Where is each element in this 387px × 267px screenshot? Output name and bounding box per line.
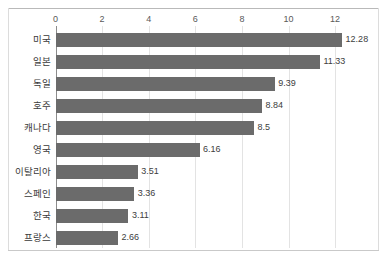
bar-chart: 024681012 미국12.28일본11.33독일9.39호주8.84캐나다8… [0,0,387,267]
bar-value-label: 12.28 [346,29,369,51]
category-label: 프랑스 [24,227,51,249]
bar-value-label: 8.5 [258,117,271,139]
bar-value-label: 3.11 [132,205,149,227]
category-label: 미국 [33,29,51,51]
bar [56,231,118,245]
bar-value-label: 11.33 [323,51,345,73]
category-label: 독일 [33,73,51,95]
bar-value-label: 6.16 [203,139,221,161]
bar-value-label: 2.66 [121,227,139,249]
category-label: 호주 [33,95,51,117]
x-tick-label: 10 [283,14,293,25]
bar-row: 스페인3.36 [0,183,387,205]
bar [56,143,200,157]
category-label: 이탈리아 [15,161,51,183]
bar-row: 독일9.39 [0,73,387,95]
bar [56,165,138,179]
bar [56,33,342,47]
bar-row: 미국12.28 [0,29,387,51]
bar-value-label: 3.36 [138,183,156,205]
bar-row: 한국3.11 [0,205,387,227]
bar [56,77,275,91]
bar [56,55,320,69]
bar-row: 이탈리아3.51 [0,161,387,183]
x-tick-label: 4 [146,14,151,25]
bar [56,121,254,135]
bar [56,209,128,223]
x-tick-label: 6 [193,14,198,25]
bar-row: 호주8.84 [0,95,387,117]
category-label: 스페인 [24,183,51,205]
bar-row: 영국6.16 [0,139,387,161]
category-label: 한국 [33,205,51,227]
bar [56,99,262,113]
plot-area: 024681012 미국12.28일본11.33독일9.39호주8.84캐나다8… [0,0,387,267]
bar-value-label: 3.51 [141,161,159,183]
bar-row: 캐나다8.5 [0,117,387,139]
category-label: 캐나다 [24,117,51,139]
bar-row: 일본11.33 [0,51,387,73]
bar [56,187,134,201]
x-tick-label: 0 [53,14,58,25]
bar-value-label: 9.39 [278,73,296,95]
category-label: 영국 [33,139,51,161]
category-label: 일본 [33,51,51,73]
x-tick-label: 12 [330,14,340,25]
x-tick-label: 2 [100,14,105,25]
bar-value-label: 8.84 [265,95,283,117]
x-tick-label: 8 [239,14,244,25]
bar-row: 프랑스2.66 [0,227,387,249]
